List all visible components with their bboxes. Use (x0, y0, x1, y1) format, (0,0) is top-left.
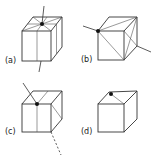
panel-a: (a) (5, 6, 62, 72)
cube-c-vertex-dot (35, 102, 39, 106)
cube-a-vertex-dot (40, 22, 44, 26)
cube-d-top-face (98, 91, 137, 104)
cube-d-top-line (111, 94, 124, 104)
cube-a-axis-line-bottom (39, 61, 41, 72)
cube-c-top-face (22, 91, 62, 104)
cube-b-vertex-dot (96, 29, 100, 33)
cube-c-right-diagonal (51, 104, 62, 119)
cube-c-top-line (37, 91, 48, 104)
cube-c-front-face (22, 104, 51, 132)
cube-b-axis-line-right (137, 46, 151, 52)
cube-b-front-diagonal (98, 31, 124, 60)
cube-d-vertex-dot (109, 92, 113, 96)
panel-d-label: (d) (81, 127, 92, 136)
panel-d: (d) (81, 91, 137, 136)
panel-c-label: (c) (5, 127, 16, 136)
panel-b-label: (b) (81, 55, 92, 64)
panel-b: (b) (81, 17, 151, 64)
panel-a-label: (a) (5, 56, 16, 65)
panel-c: (c) (5, 83, 62, 155)
cube-b-axis-line-left (83, 26, 98, 31)
cube-a-front-face (22, 31, 51, 61)
cube-diagram: (a) (b) (c) (d) (0, 0, 154, 159)
cube-b-right-diagonal-2 (124, 31, 137, 46)
cube-d-front-face (98, 104, 124, 132)
cube-c-axis-line-dashed (51, 132, 61, 155)
